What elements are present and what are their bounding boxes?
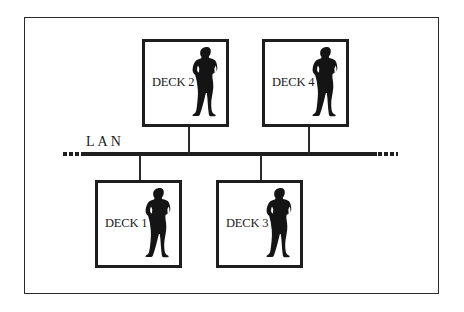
node-label: DECK 4 — [272, 75, 314, 90]
lan-bus-continuation-left — [63, 152, 83, 156]
lan-bus-continuation-right — [378, 152, 398, 156]
connector-deck4 — [308, 126, 310, 153]
node-label: DECK 1 — [105, 216, 147, 231]
node-deck1: DECK 1 — [95, 180, 182, 268]
node-deck2: DECK 2 — [142, 39, 229, 127]
connector-deck3 — [260, 155, 262, 181]
node-label: DECK 2 — [152, 75, 194, 90]
person-silhouette-icon — [312, 47, 342, 123]
person-silhouette-icon — [266, 188, 296, 264]
person-silhouette-icon — [192, 47, 222, 123]
node-deck4: DECK 4 — [262, 39, 349, 127]
node-deck3: DECK 3 — [216, 180, 303, 268]
lan-bus-line — [83, 152, 377, 156]
connector-deck2 — [188, 126, 190, 153]
lan-label: LAN — [86, 134, 124, 150]
connector-deck1 — [139, 155, 141, 181]
person-silhouette-icon — [145, 188, 175, 264]
node-label: DECK 3 — [226, 216, 268, 231]
